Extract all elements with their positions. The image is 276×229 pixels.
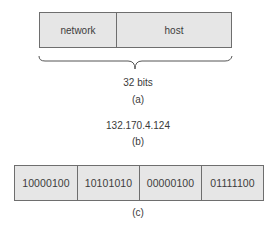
curly-brace-icon — [38, 55, 234, 73]
octet-2-value: 10101010 — [85, 177, 133, 189]
ip-address-format-box: network host — [39, 12, 232, 48]
caption-c: (c) — [0, 207, 276, 218]
octet-3-value: 00000100 — [147, 177, 195, 189]
binary-octets-box: 10000100 10101010 00000100 01111100 — [14, 165, 264, 201]
host-field: host — [116, 13, 231, 47]
caption-b: (b) — [0, 136, 276, 147]
octet-2: 10101010 — [77, 166, 139, 200]
caption-a: (a) — [0, 94, 276, 105]
octet-1: 10000100 — [15, 166, 77, 200]
network-field-label: network — [60, 25, 95, 36]
dotted-decimal-address: 132.170.4.124 — [0, 120, 276, 131]
network-field: network — [40, 13, 116, 47]
octet-1-value: 10000100 — [22, 177, 70, 189]
octet-3: 00000100 — [139, 166, 201, 200]
octet-4: 01111100 — [201, 166, 263, 200]
octet-4-value: 01111100 — [210, 177, 254, 189]
bit-width-label: 32 bits — [0, 77, 276, 88]
host-field-label: host — [165, 25, 184, 36]
